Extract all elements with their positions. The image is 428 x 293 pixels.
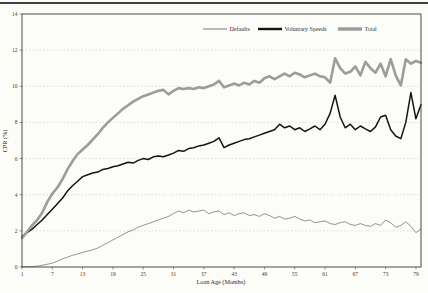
x-axis-title: Loan Age (Months) [197,278,246,286]
cpr-line-chart: 17131925313743495561677379 02468101214 L… [0,0,428,293]
y-tick-label-12: 12 [12,47,18,53]
y-tick-label-6: 6 [15,156,18,162]
series-line-voluntary-speeds [22,93,421,237]
y-tick-label-2: 2 [15,228,18,234]
x-tick-labels: 17131925313743495561677379 [21,271,419,277]
series-line-defaults [22,210,421,267]
x-tick-label-25: 25 [140,271,146,277]
y-tick-label-8: 8 [15,119,18,125]
x-tick-label-37: 37 [201,271,207,277]
legend-label-voluntary-speeds: Voluntary Speeds [285,26,328,32]
x-tick-label-73: 73 [383,271,389,277]
x-tick-label-43: 43 [231,271,237,277]
y-tick-label-0: 0 [15,264,18,270]
legend: DefaultsVoluntary SpeedsTotal [203,26,377,32]
x-tick-label-7: 7 [51,271,54,277]
y-axis-title: CPR (%) [1,130,9,153]
gridlines [22,50,421,231]
x-tick-label-49: 49 [262,271,268,277]
chart-series [22,58,421,266]
series-line-total [22,58,421,238]
x-tick-label-1: 1 [21,271,24,277]
x-tick-label-61: 61 [322,271,328,277]
x-tick-label-13: 13 [80,271,86,277]
y-tick-labels: 02468101214 [12,11,18,270]
legend-label-total: Total [365,26,378,32]
figure-page: 17131925313743495561677379 02468101214 L… [0,0,428,293]
x-tick-label-79: 79 [413,271,419,277]
x-tick-label-67: 67 [353,271,359,277]
y-tick-label-14: 14 [12,11,18,17]
x-tick-label-31: 31 [171,271,177,277]
axis-ticks [20,14,416,270]
plot-border [22,14,421,267]
legend-label-defaults: Defaults [230,26,251,32]
y-tick-label-10: 10 [12,83,18,89]
y-tick-label-4: 4 [15,192,18,198]
x-tick-label-19: 19 [110,271,116,277]
x-tick-label-55: 55 [292,271,298,277]
